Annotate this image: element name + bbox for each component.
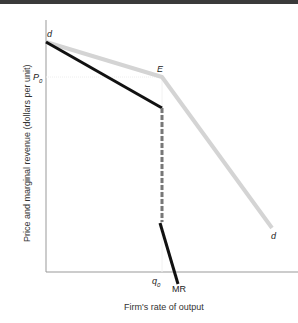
q0-label: q0	[152, 276, 160, 288]
q-sub: 0	[157, 282, 160, 288]
d-top-label: d	[47, 29, 52, 39]
y-axis-label: Price and marginal revenue (dollars per …	[22, 72, 32, 242]
e-label: E	[157, 64, 163, 74]
mr-label: MR	[172, 284, 186, 294]
mr-lower-segment	[160, 223, 178, 284]
kinked-demand-diagram	[0, 0, 298, 323]
x-axis-label: Firm's rate of output	[124, 302, 204, 312]
d-bottom-label: d	[271, 231, 276, 241]
p-sub: 0	[39, 78, 42, 84]
mr-upper-segment	[46, 42, 162, 108]
p0-label: P0	[33, 72, 42, 84]
